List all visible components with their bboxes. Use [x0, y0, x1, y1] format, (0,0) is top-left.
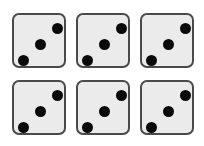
die-6: [140, 80, 194, 135]
pip-icon: [99, 106, 110, 117]
pip-icon: [116, 23, 127, 34]
die-1: [12, 13, 66, 68]
pip-icon: [35, 39, 46, 50]
pip-icon: [163, 106, 174, 117]
pip-icon: [35, 106, 46, 117]
pip-icon: [180, 23, 191, 34]
die-3: [140, 13, 194, 68]
pip-icon: [52, 90, 63, 101]
die-5: [76, 80, 130, 135]
die-4: [12, 80, 66, 135]
pip-icon: [18, 122, 29, 133]
pip-icon: [18, 55, 29, 66]
pip-icon: [146, 122, 157, 133]
pip-icon: [180, 90, 191, 101]
pip-icon: [163, 39, 174, 50]
pip-icon: [146, 55, 157, 66]
die-2: [76, 13, 130, 68]
pip-icon: [52, 23, 63, 34]
pip-icon: [116, 90, 127, 101]
pip-icon: [99, 39, 110, 50]
pip-icon: [82, 55, 93, 66]
pip-icon: [82, 122, 93, 133]
